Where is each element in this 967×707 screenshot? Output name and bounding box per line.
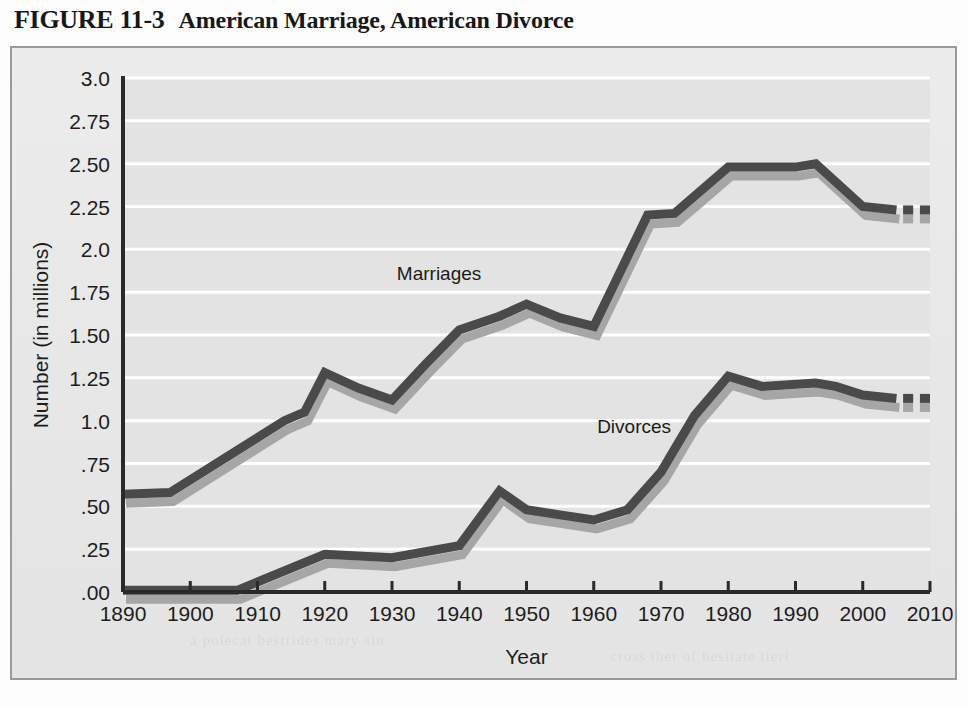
y-tick-label: 1.75 (69, 281, 110, 304)
x-tick-label: 1960 (570, 602, 617, 625)
line-chart: .00.25.50.751.01.251.501.752.02.252.502.… (10, 46, 957, 680)
x-tick-label: 2010 (907, 602, 954, 625)
y-tick-label: 2.0 (81, 238, 110, 261)
x-tick-label: 1940 (436, 602, 483, 625)
series-label-divorces: Divorces (597, 416, 671, 437)
y-axis-title: Number (in millions) (29, 242, 52, 429)
y-tick-label: .50 (81, 495, 110, 518)
figure-root: FIGURE 11-3 American Marriage, American … (0, 0, 967, 707)
figure-title-text: American Marriage, American Divorce (179, 7, 574, 34)
y-tick-label: 1.25 (69, 367, 110, 390)
x-tick-label: 2000 (839, 602, 886, 625)
y-tick-label: 3.0 (81, 67, 110, 90)
y-tick-label: 1.50 (69, 324, 110, 347)
y-tick-label: 2.50 (69, 153, 110, 176)
y-tick-label: 1.0 (81, 410, 110, 433)
x-axis-title: Year (505, 645, 547, 668)
x-tick-label: 1930 (369, 602, 416, 625)
figure-title: FIGURE 11-3 American Marriage, American … (14, 2, 914, 38)
x-tick-label: 1920 (301, 602, 348, 625)
x-tick-label: 1990 (772, 602, 819, 625)
x-tick-label: 1950 (503, 602, 550, 625)
x-tick-label: 1890 (100, 602, 147, 625)
figure-number: FIGURE 11-3 (14, 5, 165, 35)
x-tick-label: 1910 (234, 602, 281, 625)
series-label-marriages: Marriages (397, 263, 481, 284)
y-tick-label: 2.75 (69, 110, 110, 133)
y-tick-label: .75 (81, 453, 110, 476)
x-tick-label: 1970 (638, 602, 685, 625)
x-tick-label: 1980 (705, 602, 752, 625)
y-tick-label: .25 (81, 538, 110, 561)
x-tick-label: 1900 (167, 602, 214, 625)
y-tick-label: .00 (81, 581, 110, 604)
y-tick-label: 2.25 (69, 196, 110, 219)
